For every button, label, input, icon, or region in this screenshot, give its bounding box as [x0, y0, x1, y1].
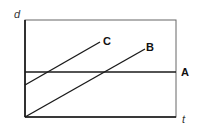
distance-time-diagram: d t A B C: [0, 0, 200, 132]
line-a-label: A: [181, 66, 189, 78]
line-b: [25, 49, 145, 117]
x-axis-label: t: [182, 113, 186, 125]
line-b-label: B: [146, 41, 154, 53]
line-c-label: C: [103, 35, 111, 47]
y-axis-label: d: [14, 8, 21, 20]
plot-frame: [25, 20, 176, 117]
line-c: [25, 42, 100, 85]
